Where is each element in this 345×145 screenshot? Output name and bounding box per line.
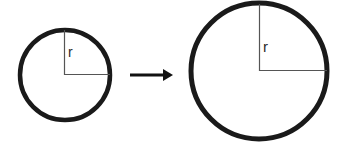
transformation-arrow bbox=[130, 69, 173, 81]
small-circle-group: r bbox=[20, 30, 110, 120]
diagram-canvas: r r bbox=[0, 0, 345, 145]
small-circle-radius-label: r bbox=[68, 44, 73, 60]
large-circle-radius-label: r bbox=[263, 38, 268, 55]
large-circle-group: r bbox=[191, 3, 327, 139]
circle-radius-growth-diagram: r r bbox=[0, 0, 345, 145]
arrow-head-icon bbox=[163, 69, 173, 81]
